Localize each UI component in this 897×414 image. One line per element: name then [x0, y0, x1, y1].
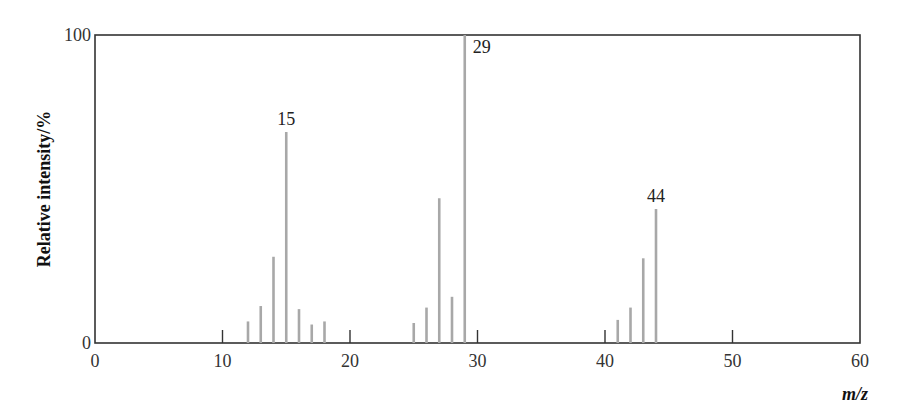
peaks: [248, 35, 656, 343]
x-tick-label: 30: [469, 351, 487, 371]
x-tick-label: 20: [341, 351, 359, 371]
mass-spectrum-chart: 0102030405060 0100 152944 Relative inten…: [0, 0, 897, 414]
y-axis-title: Relative intensity/%: [34, 111, 54, 267]
plot-frame: [95, 35, 860, 343]
peak-label: 29: [473, 37, 491, 57]
peak-annotations: 152944: [277, 37, 665, 206]
x-axis-title: m/z: [842, 384, 868, 404]
peak-label: 15: [277, 109, 295, 129]
x-tick-label: 50: [724, 351, 742, 371]
peak-label: 44: [647, 186, 665, 206]
plot-border: [95, 35, 860, 343]
y-tick-label: 0: [82, 333, 91, 353]
x-tick-label: 40: [596, 351, 614, 371]
y-tick-label: 100: [64, 25, 91, 45]
x-axis-tick-labels: 0102030405060: [91, 351, 870, 371]
x-tick-label: 60: [851, 351, 869, 371]
x-tick-label: 0: [91, 351, 100, 371]
y-axis-tick-labels: 0100: [64, 25, 91, 353]
x-tick-label: 10: [214, 351, 232, 371]
